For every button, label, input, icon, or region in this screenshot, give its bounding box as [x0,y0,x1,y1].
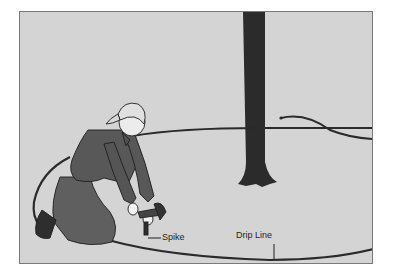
drip-line-label: Drip Line [236,230,272,240]
drip-line-illustration [20,12,373,264]
illustration-frame: Spike Drip Line [19,11,373,264]
tree-trunk [238,12,277,187]
kneeling-person [36,103,166,244]
drip-line-hose-front [108,240,373,260]
spike-label: Spike [162,232,185,242]
